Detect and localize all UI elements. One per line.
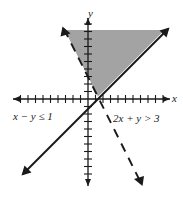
shaded-solution-region (65, 30, 165, 97)
inequality-label-2: 2x + y > 3 (113, 113, 160, 124)
x-axis-arrow-right (163, 96, 170, 102)
y-axis-arrow-down (85, 179, 91, 186)
x-axis-arrow-left (13, 96, 20, 102)
inequality-label-1: x − y ≤ 1 (13, 111, 53, 122)
y-axis-label: y (88, 8, 93, 19)
x-axis-label: x (172, 93, 177, 104)
coordinate-plane-svg (0, 0, 183, 203)
dashed-line-arrow-lower-right (134, 176, 144, 186)
graph-figure: x − y ≤ 1 2x + y > 3 x y (0, 0, 183, 203)
